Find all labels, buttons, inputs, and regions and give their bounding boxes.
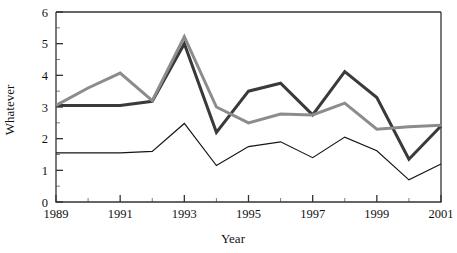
x-tick-label: 1991	[108, 207, 133, 221]
line-chart: 1989199119931995199719992001 0123456 Yea…	[0, 0, 457, 253]
x-axis-title: Year	[221, 231, 246, 246]
y-tick-label: 5	[42, 37, 48, 51]
y-axis-title: Whatever	[2, 84, 17, 135]
y-tick-label: 3	[42, 101, 48, 115]
x-tick-label: 1993	[172, 207, 197, 221]
x-tick-label: 1999	[364, 207, 389, 221]
x-tick-label: 1997	[300, 207, 325, 221]
y-tick-label: 0	[42, 196, 48, 210]
chart-canvas: 1989199119931995199719992001 0123456 Yea…	[0, 0, 457, 253]
x-tick-label: 2001	[429, 207, 454, 221]
y-tick-label: 1	[42, 164, 48, 178]
y-tick-label: 4	[42, 69, 49, 83]
y-tick-label: 6	[42, 6, 48, 20]
y-tick-label: 2	[42, 132, 48, 146]
x-tick-label: 1995	[236, 207, 261, 221]
